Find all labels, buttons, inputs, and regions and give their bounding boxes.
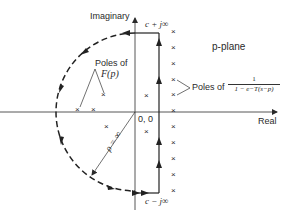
real-axis-label: Real [258, 117, 277, 126]
pole-marker: × [171, 91, 176, 99]
imaginary-axis-label: Imaginary [90, 12, 130, 21]
pole-marker: × [171, 28, 176, 36]
fraction-denominator: 1 − e−T(s−p) [228, 84, 280, 93]
pole-marker: × [171, 76, 176, 84]
laplace-inversion-contour-diagram: × × × × × × × × × × × × × × × × × Imagin… [0, 0, 291, 223]
poles-F-function: F(p) [101, 69, 119, 79]
pole-marker: × [91, 106, 96, 114]
pole-marker: × [104, 123, 109, 131]
poles-periodic-label: Poles of [192, 83, 225, 92]
pole-marker: × [171, 155, 176, 163]
plane-label: p-plane [212, 42, 245, 52]
fraction-numerator: 1 [228, 76, 280, 84]
pole-marker: × [171, 107, 176, 115]
pole-marker: × [101, 91, 106, 99]
poles-F-label: Poles of [95, 59, 128, 68]
pole-marker: × [171, 171, 176, 179]
pole-marker: × [171, 60, 176, 68]
pole-marker: × [171, 44, 176, 52]
pole-marker: × [144, 128, 149, 136]
pole-marker: × [171, 123, 176, 131]
contour-bottom-label: c − j∞ [145, 197, 168, 206]
pole-marker: × [75, 106, 80, 114]
pole-marker: × [144, 92, 149, 100]
pole-marker: × [171, 139, 176, 147]
contour-top-label: c + j∞ [145, 20, 168, 29]
origin-label: 0, 0 [138, 115, 153, 124]
pole-marker: × [171, 187, 176, 195]
periodic-pole-fraction: 1 1 − e−T(s−p) [228, 76, 280, 93]
poles-periodic-pointers [177, 80, 190, 95]
diagram-graphics [0, 0, 291, 223]
arc-arrows [59, 30, 140, 196]
